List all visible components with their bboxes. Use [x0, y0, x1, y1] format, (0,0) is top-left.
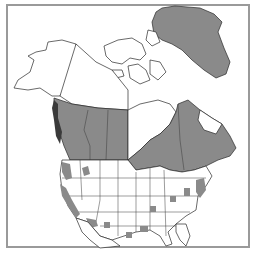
north-america-map — [0, 0, 262, 268]
greenland — [152, 6, 230, 78]
florida — [176, 224, 190, 246]
